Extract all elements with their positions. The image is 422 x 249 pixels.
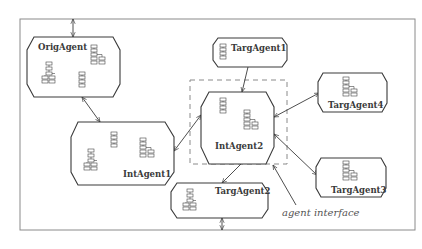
agent-label: IntAgent1: [123, 169, 171, 179]
agent-origagent: OrigAgent: [27, 37, 120, 97]
agent-interface-label: agent interface: [282, 207, 360, 218]
agent-targagent2: TargAgent2: [171, 183, 270, 218]
agent-intagent2: IntAgent2: [201, 92, 274, 164]
agent-targagent1: TargAgent1: [213, 38, 287, 67]
agent-label: TargAgent4: [328, 100, 383, 110]
agent-diagram: OrigAgent IntAgent1 IntAgent2 TargAgent1…: [0, 0, 422, 249]
agent-label: TargAgent1: [231, 43, 286, 53]
connector-int2-targ4: [274, 93, 319, 117]
agent-label: OrigAgent: [38, 42, 87, 52]
agent-targagent4: TargAgent4: [318, 73, 387, 112]
connector-int1-int2: [174, 115, 201, 151]
agent-label: IntAgent2: [215, 141, 263, 151]
agent-intagent1: IntAgent1: [71, 122, 174, 185]
agent-targagent3: TargAgent3: [316, 158, 386, 197]
connector-int2-targ3: [274, 134, 317, 175]
agent-label: TargAgent3: [331, 185, 386, 195]
connector-orig-int1: [82, 97, 100, 122]
connector-int2-targ2: [222, 164, 241, 183]
annotation-leader: [273, 165, 296, 205]
agent-label: TargAgent2: [215, 186, 270, 196]
